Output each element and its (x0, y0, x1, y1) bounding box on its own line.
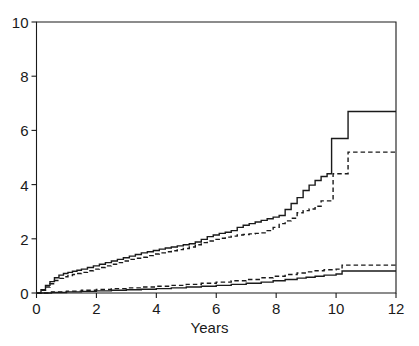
ytick-label-0: 0 (3, 286, 29, 301)
x-axis-title: Years (0, 320, 419, 335)
xtick-label-8: 8 (262, 301, 290, 316)
ytick-label-6: 6 (3, 123, 29, 138)
xtick-label-12: 12 (382, 301, 410, 316)
ytick-label-4: 4 (3, 178, 29, 193)
ytick-label-8: 8 (3, 69, 29, 84)
xtick-label-6: 6 (202, 301, 230, 316)
series-lower-dashed (37, 265, 397, 293)
ytick-label-10: 10 (3, 15, 29, 30)
xtick-label-2: 2 (82, 301, 110, 316)
axis-ticks (32, 22, 397, 298)
ytick-label-2: 2 (3, 232, 29, 247)
data-series-group (37, 111, 397, 293)
axis-frame (37, 22, 397, 293)
xtick-label-0: 0 (23, 301, 51, 316)
plot-area (0, 0, 419, 346)
xtick-label-10: 10 (322, 301, 350, 316)
cumulative-incidence-chart: 0 2 4 6 8 10 0 2 4 6 8 10 12 Years (0, 0, 419, 346)
xtick-label-4: 4 (142, 301, 170, 316)
